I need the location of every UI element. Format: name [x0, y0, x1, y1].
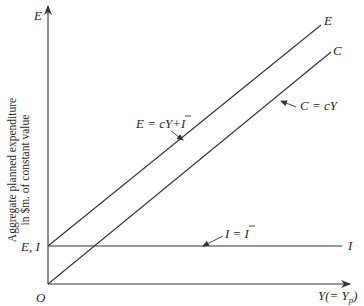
- y-axis-title-line2: in $m. of constant value: [19, 115, 31, 226]
- c-line-label: C: [333, 43, 342, 58]
- origin-label: O: [36, 290, 46, 305]
- x-axis-label: Y(= Yp): [318, 288, 358, 305]
- e-equation: E = cY+I: [135, 116, 186, 131]
- consumption-line: [48, 52, 331, 284]
- c-equation: C = cY: [300, 98, 339, 113]
- y-axis-title: Aggregate planned expenditure in $m. of …: [6, 98, 31, 242]
- i-equation-pointer: [203, 236, 223, 246]
- c-equation-pointer: [281, 101, 296, 107]
- intercept-label: E, I: [20, 239, 40, 254]
- keynesian-cross-diagram: E O E, I Y(= Yp) Aggregate planned expen…: [0, 0, 364, 306]
- e-line-label: E: [323, 13, 332, 28]
- i-equation: I = I: [224, 226, 250, 241]
- expenditure-line: [48, 25, 321, 246]
- y-axis-symbol: E: [33, 8, 42, 23]
- i-line-label: I: [347, 238, 353, 253]
- e-equation-pointer: [171, 131, 183, 140]
- y-axis-title-line1: Aggregate planned expenditure: [6, 98, 19, 242]
